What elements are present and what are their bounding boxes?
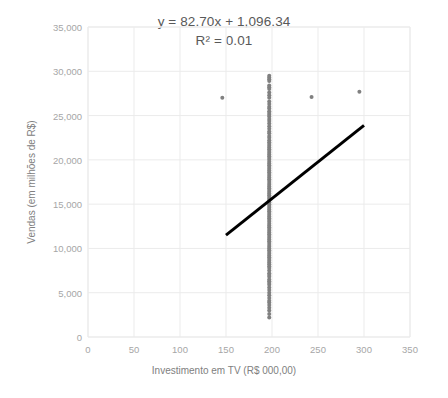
- x-axis-tick-label: 100: [172, 344, 188, 355]
- x-axis-tick-label: 200: [264, 344, 280, 355]
- y-axis-tick-label: 10,000: [22, 243, 82, 254]
- x-axis-tick-label: 50: [129, 344, 140, 355]
- x-axis-tick-label: 350: [402, 344, 418, 355]
- gridlines: [88, 27, 410, 337]
- y-axis-tick-label: 5,000: [22, 287, 82, 298]
- x-axis-tick-label: 150: [218, 344, 234, 355]
- data-point: [267, 79, 271, 83]
- data-points: [220, 74, 361, 320]
- scatter-chart: y = 82.70x + 1,096.34 R² = 0.01 05,00010…: [0, 0, 448, 398]
- x-axis-tick-label: 300: [356, 344, 372, 355]
- y-axis-title: Vendas (em milhões de R$): [26, 120, 37, 243]
- trendline: [226, 125, 364, 235]
- y-axis-tick-label: 35,000: [22, 22, 82, 33]
- x-axis-tick-label: 250: [310, 344, 326, 355]
- data-point: [267, 87, 271, 91]
- plot-border: [88, 27, 410, 337]
- data-point: [220, 96, 224, 100]
- y-axis-tick-label: 30,000: [22, 66, 82, 77]
- data-point: [310, 95, 314, 99]
- data-point: [267, 308, 271, 312]
- y-axis-tick-label: 0: [22, 332, 82, 343]
- data-point: [267, 312, 271, 316]
- x-axis-title: Investimento em TV (R$ 000,00): [0, 365, 448, 376]
- x-axis-tick-label: 0: [85, 344, 90, 355]
- data-point: [267, 316, 271, 320]
- trendline-path: [226, 125, 364, 235]
- data-point: [357, 90, 361, 94]
- data-point: [267, 96, 271, 100]
